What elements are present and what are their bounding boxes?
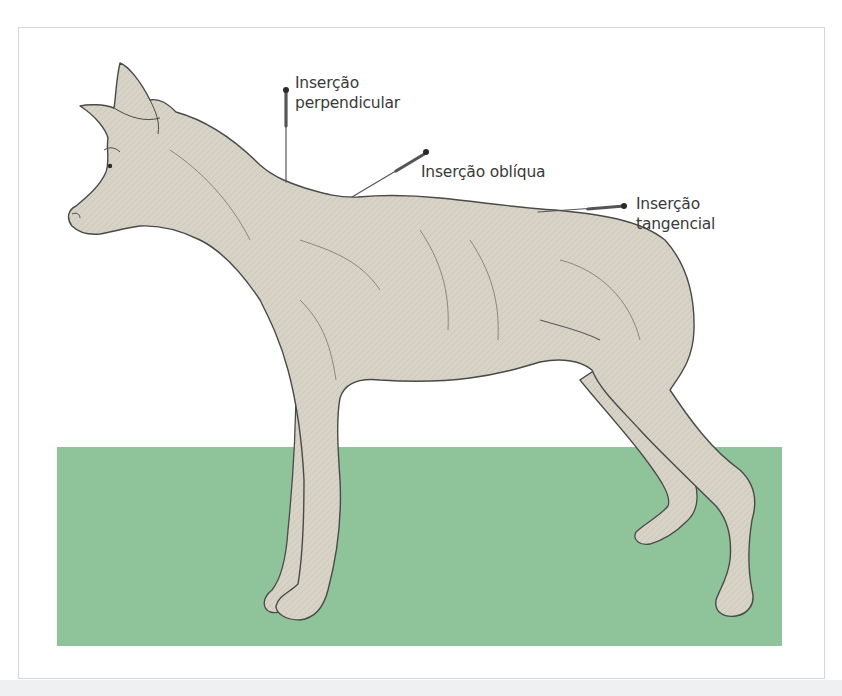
needle-tangential (538, 203, 627, 212)
needle-oblique (352, 149, 429, 197)
needle-perpendicular (283, 87, 289, 182)
label-tangential: Inserção tangencial (636, 194, 715, 234)
label-tangential-line1: Inserção (636, 194, 715, 214)
label-perpendicular: Inserção perpendicular (295, 73, 400, 113)
label-perpendicular-line1: Inserção (295, 73, 400, 93)
label-tangential-line2: tangencial (636, 214, 715, 234)
label-oblique: Inserção oblíqua (421, 162, 545, 182)
label-oblique-line1: Inserção oblíqua (421, 162, 545, 182)
dog-illustration (0, 0, 842, 696)
label-perpendicular-line2: perpendicular (295, 93, 400, 113)
